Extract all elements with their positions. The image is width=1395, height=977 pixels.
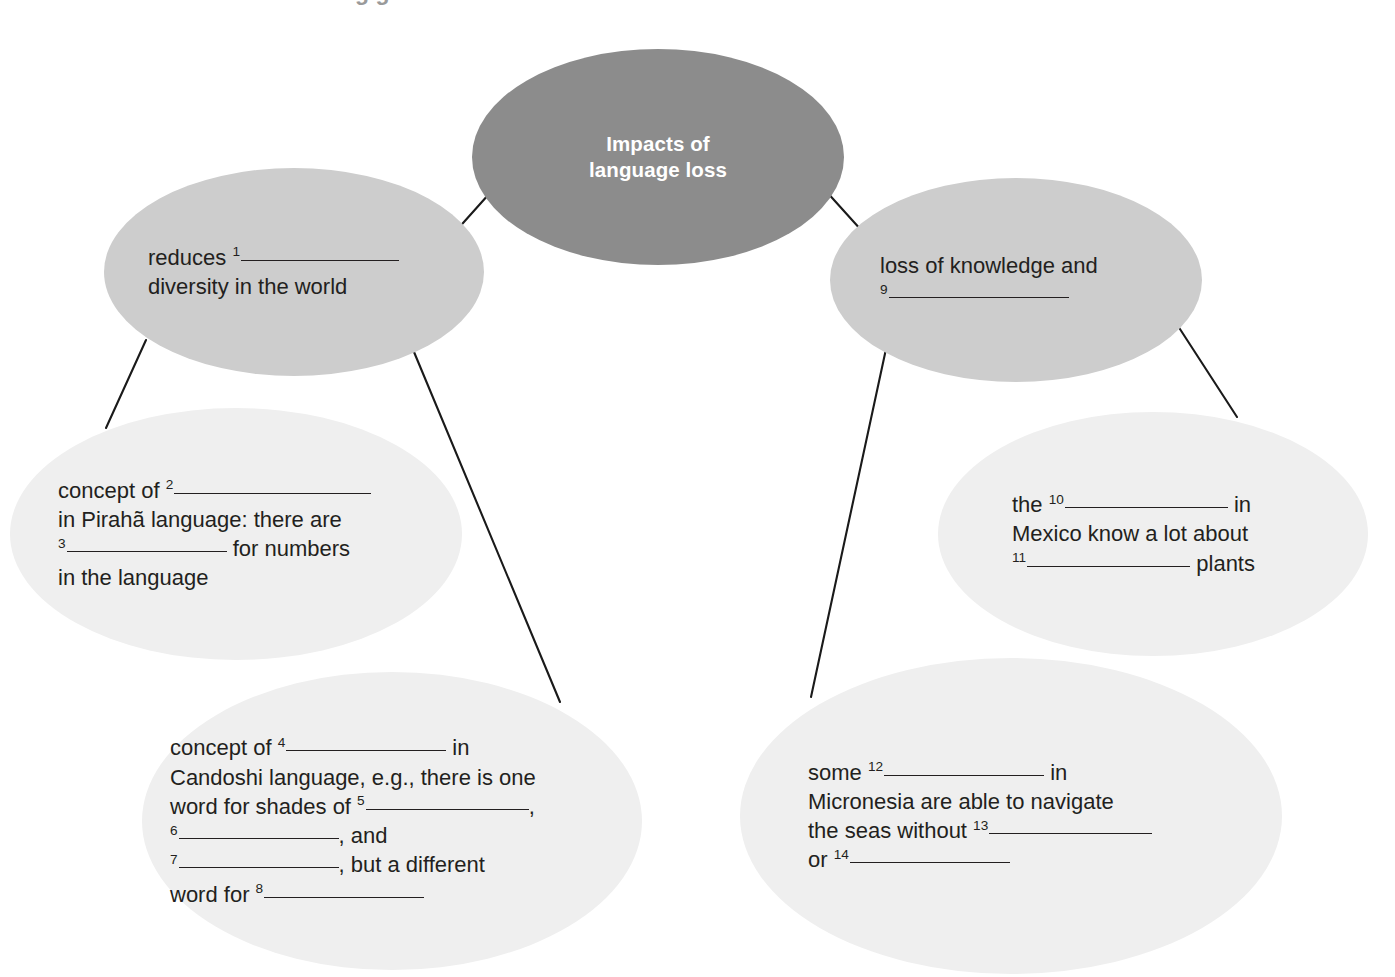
text-line: 7, but a different (170, 850, 630, 879)
answer-blank-10[interactable] (1065, 487, 1228, 508)
node-reduces-diversity[interactable]: reduces 1diversity in the world (104, 168, 484, 376)
answer-blank-11[interactable] (1027, 545, 1190, 566)
node-center-text: Impacts oflanguage loss (472, 131, 844, 183)
text-run: word for shades of (170, 794, 357, 819)
text-run: , but a different (339, 852, 485, 877)
text-line: the seas without 13 (808, 816, 1268, 845)
node-impacts-of-language-loss[interactable]: Impacts oflanguage loss (472, 49, 844, 265)
text-run: in (1228, 492, 1251, 517)
answer-blank-1[interactable] (241, 240, 399, 261)
text-run: Candoshi language, e.g., there is one (170, 765, 536, 790)
answer-blank-4[interactable] (286, 730, 446, 751)
text-run: loss of knowledge and (880, 253, 1098, 278)
text-line: in Pirahã language: there are (58, 505, 444, 534)
answer-blank-14[interactable] (850, 842, 1010, 863)
text-line: loss of knowledge and (880, 251, 1184, 280)
gap-number-9: 9 (880, 282, 889, 297)
text-run: or (808, 847, 834, 872)
node-micronesia-text: some 12 inMicronesia are able to navigat… (808, 758, 1268, 875)
answer-blank-12[interactable] (884, 754, 1044, 775)
answer-blank-6[interactable] (179, 818, 339, 839)
node-concept-of-candoshi[interactable]: concept of 4 inCandoshi language, e.g., … (142, 672, 642, 970)
text-line: Mexico know a lot about (1012, 519, 1354, 548)
text-line: word for 8 (170, 880, 630, 909)
text-line: some 12 in (808, 758, 1268, 787)
text-line: 9 (880, 280, 1184, 309)
cropped-heading-text: g g (355, 0, 390, 6)
text-run: in (1044, 760, 1067, 785)
text-run: the seas without (808, 818, 973, 843)
text-run: for numbers (227, 536, 351, 561)
text-run: concept of (58, 478, 166, 503)
node-mexico-plants[interactable]: the 10 inMexico know a lot about11 plant… (938, 412, 1368, 656)
gap-number-5: 5 (357, 793, 366, 808)
text-run: some (808, 760, 868, 785)
text-line: in the language (58, 563, 444, 592)
node-branch-right-text: loss of knowledge and9 (880, 251, 1184, 310)
node-mexico-text: the 10 inMexico know a lot about11 plant… (1012, 490, 1354, 578)
gap-number-2: 2 (166, 477, 175, 492)
text-line: reduces 1 (148, 243, 464, 272)
text-run: the (1012, 492, 1049, 517)
text-run: diversity in the world (148, 274, 347, 299)
text-line: Micronesia are able to navigate (808, 787, 1268, 816)
gap-number-6: 6 (170, 823, 179, 838)
text-run: in (446, 735, 469, 760)
text-run: in Pirahã language: there are (58, 507, 342, 532)
text-run: , and (339, 823, 388, 848)
answer-blank-2[interactable] (174, 472, 371, 493)
text-run: plants (1190, 551, 1255, 576)
text-line: Impacts of (472, 131, 844, 157)
text-run: , (529, 794, 535, 819)
text-line: or 14 (808, 845, 1268, 874)
text-line: Candoshi language, e.g., there is one (170, 763, 630, 792)
gap-number-13: 13 (973, 818, 989, 833)
gap-number-8: 8 (256, 881, 265, 896)
node-loss-of-knowledge[interactable]: loss of knowledge and9 (830, 178, 1202, 382)
gap-number-7: 7 (170, 852, 179, 867)
text-run: word for (170, 882, 256, 907)
cropped-heading-remnant: g g (0, 0, 1395, 7)
answer-blank-3[interactable] (67, 531, 227, 552)
gap-number-14: 14 (834, 847, 850, 862)
text-line: the 10 in (1012, 490, 1354, 519)
gap-number-1: 1 (232, 244, 241, 259)
text-line: language loss (472, 157, 844, 183)
text-run: concept of (170, 735, 278, 760)
text-line: 6, and (170, 821, 630, 850)
text-run: Micronesia are able to navigate (808, 789, 1114, 814)
text-run: Mexico know a lot about (1012, 521, 1248, 546)
connector-right-branch-to-micronesia (811, 349, 886, 697)
text-run: in the language (58, 565, 208, 590)
text-line: diversity in the world (148, 272, 464, 301)
text-line: 11 plants (1012, 549, 1354, 578)
text-line: concept of 4 in (170, 733, 630, 762)
answer-blank-8[interactable] (264, 876, 424, 897)
gap-number-4: 4 (278, 735, 287, 750)
answer-blank-5[interactable] (366, 789, 529, 810)
node-concept-of-piraha[interactable]: concept of 2in Pirahã language: there ar… (10, 408, 462, 660)
mind-map-page: g g Impacts oflanguage loss reduces 1div… (0, 0, 1395, 977)
text-run: reduces (148, 245, 232, 270)
gap-number-11: 11 (1012, 550, 1027, 565)
answer-blank-7[interactable] (179, 847, 339, 868)
text-line: concept of 2 (58, 476, 444, 505)
answer-blank-13[interactable] (989, 813, 1152, 834)
gap-number-3: 3 (58, 536, 67, 551)
node-micronesia-navigation[interactable]: some 12 inMicronesia are able to navigat… (740, 658, 1282, 974)
node-candoshi-text: concept of 4 inCandoshi language, e.g., … (170, 733, 630, 909)
node-branch-left-text: reduces 1diversity in the world (148, 243, 464, 302)
gap-number-12: 12 (868, 759, 884, 774)
gap-number-10: 10 (1049, 492, 1065, 507)
node-piraha-text: concept of 2in Pirahã language: there ar… (58, 476, 444, 593)
text-line: word for shades of 5, (170, 792, 630, 821)
answer-blank-9[interactable] (889, 277, 1069, 298)
text-line: 3 for numbers (58, 534, 444, 563)
